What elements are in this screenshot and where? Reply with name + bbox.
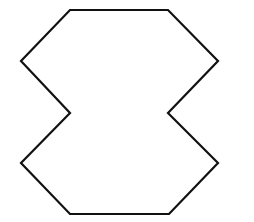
- polygon-diagram: [0, 0, 254, 222]
- diagram-canvas: [0, 0, 254, 222]
- concave-decagon-shape: [21, 10, 218, 214]
